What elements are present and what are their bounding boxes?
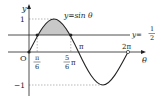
sine-diagram: y 1 −1 O y=sin θ y= 1 2 θ π 6 5 6 π π 2π [0,0,163,101]
x-tick-5pi6-suffix: π [71,59,76,67]
line-label-den: 2 [150,34,154,42]
point-5pi6 [69,33,72,36]
point-origin [27,50,30,53]
x-tick-2pi: 2π [122,43,131,51]
y-axis-label: y [21,4,27,13]
origin-label: O [20,54,27,63]
y-tick-neg1: −1 [14,81,25,90]
x-tick-5pi6-den: 6 [65,63,69,71]
x-tick-pi6-num: π [35,54,40,62]
shaded-region [37,19,71,35]
line-label-num: 1 [150,25,154,33]
point-pi6 [36,33,39,36]
y-tick-1: 1 [20,15,25,24]
line-label-prefix: y= [131,31,142,39]
x-tick-pi: π [79,43,84,51]
x-axis-label: θ [142,56,147,65]
x-axis-arrow-icon [141,50,146,54]
curve-label: y=sin θ [63,11,93,20]
y-axis-arrow-icon [27,4,31,9]
x-tick-pi6-den: 6 [35,63,39,71]
x-tick-5pi6-num: 5 [65,54,69,62]
